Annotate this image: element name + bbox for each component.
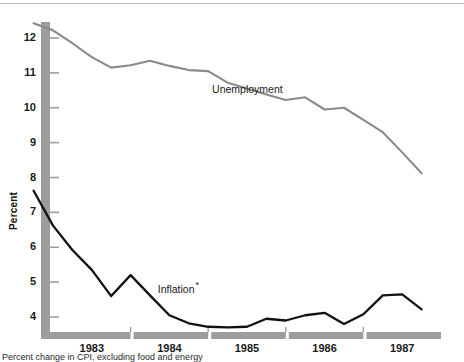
y-tick-label-10: 10: [10, 102, 36, 113]
x-axis-segment-1987: [366, 332, 441, 339]
inflation-series-label-text: Inflation: [158, 283, 195, 295]
x-axis-bar-segments: [41, 332, 441, 339]
inflation-footnote-marker: *: [196, 280, 200, 290]
y-axis-tick-marks: [50, 38, 59, 317]
inflation-line: [34, 191, 422, 328]
x-tick-label-1986: 1986: [290, 343, 360, 354]
unemployment-line: [34, 23, 422, 173]
y-tick-label-9: 9: [10, 137, 36, 148]
y-axis-bar-group: [41, 22, 50, 337]
y-axis-title: Percent: [8, 192, 19, 230]
x-axis-segment-1983: [41, 332, 131, 339]
y-tick-label-11: 11: [10, 67, 36, 78]
y-tick-label-12: 12: [10, 32, 36, 43]
unemployment-series-label: Unemployment: [212, 83, 283, 95]
y-tick-label-5: 5: [10, 276, 36, 287]
y-tick-label-4: 4: [10, 311, 36, 322]
x-axis-segment-1985: [211, 332, 286, 339]
inflation-series-label: Inflation*: [158, 280, 199, 295]
chart-footnote: Percent change in CPI, excluding food an…: [2, 352, 203, 362]
y-tick-label-6: 6: [10, 241, 36, 252]
x-axis-segment-1984: [134, 332, 209, 339]
x-tick-label-1985: 1985: [212, 343, 282, 354]
y-axis-bar: [41, 22, 50, 337]
y-tick-label-8: 8: [10, 172, 36, 183]
x-tick-label-1987: 1987: [367, 343, 437, 354]
x-axis-segment-1986: [289, 332, 364, 339]
